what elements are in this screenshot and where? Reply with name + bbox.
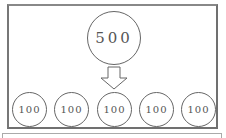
target-circle-1: 100 [12,92,47,127]
target-circle-2: 100 [54,92,89,127]
down-arrow-icon [99,66,129,90]
target-circle-5: 100 [181,92,216,127]
lower-frame-edge [2,133,222,138]
target-value: 100 [18,104,40,115]
target-circle-4: 100 [139,92,174,127]
source-circle: 500 [87,11,141,65]
target-value: 100 [187,104,209,115]
target-value: 100 [103,104,125,115]
target-value: 100 [60,104,82,115]
source-value: 500 [95,29,133,47]
target-circle-3: 100 [97,92,132,127]
target-value: 100 [145,104,167,115]
